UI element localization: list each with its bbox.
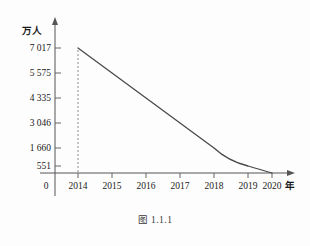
y-axis-arrow-icon [52,17,58,25]
x-tick-label: 2016 [137,181,156,191]
data-series-line [78,48,272,173]
y-tick-label: 4 335 [30,93,52,103]
x-tick-label: 2018 [205,181,224,191]
y-tick-label: 3 046 [30,118,52,128]
line-chart: 7 017 5 575 4 335 3 046 1 660 551 0 2014… [0,0,310,210]
y-tick-label: 551 [37,161,52,171]
x-tick-label: 2014 [69,181,88,191]
x-tick-label: 2017 [171,181,190,191]
x-tick-label: 2015 [103,181,122,191]
x-tick-label: 2019 [239,181,258,191]
figure-caption: 图 1.1.1 [0,212,310,226]
origin-label: 0 [44,181,49,191]
y-axis-unit-label: 万人 [21,25,42,36]
x-tick-label: 2020 [263,181,282,191]
figure-container: 7 017 5 575 4 335 3 046 1 660 551 0 2014… [0,0,310,246]
x-axis-arrow-icon [287,170,295,176]
y-tick-label: 7 017 [30,43,52,53]
y-tick-label: 1 660 [30,143,52,153]
y-tick-label: 5 575 [30,68,52,78]
x-axis-unit-label: 年 [285,180,295,191]
